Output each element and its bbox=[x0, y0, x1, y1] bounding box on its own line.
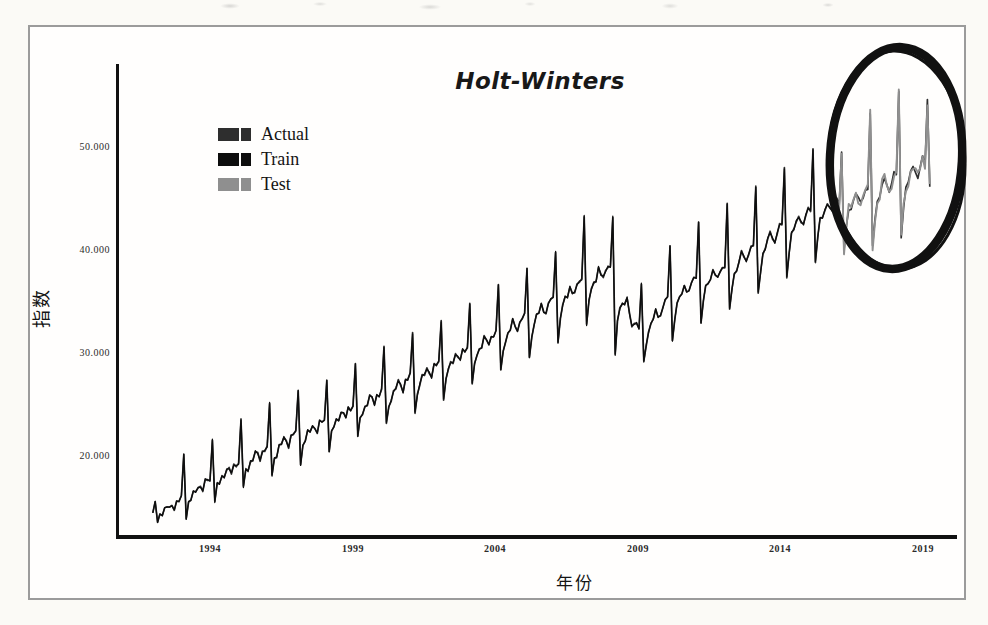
actual-line-swatch-icon bbox=[218, 128, 251, 141]
y-tick-30000: 30.000 bbox=[50, 347, 110, 358]
x-tick-2019: 2019 bbox=[912, 543, 934, 554]
legend-entry-train: Train bbox=[218, 147, 309, 172]
legend-entry-test: Test bbox=[218, 172, 309, 197]
legend-label-actual: Actual bbox=[261, 124, 309, 145]
legend-label-train: Train bbox=[261, 149, 299, 170]
x-tick-2004: 2004 bbox=[484, 543, 506, 554]
chart-title: Holt-Winters bbox=[455, 68, 625, 94]
x-tick-2009: 2009 bbox=[627, 543, 649, 554]
train-line-swatch-icon bbox=[218, 153, 251, 166]
screenshot-canvas: Holt-Winters Actual Train Test 50.000 40… bbox=[0, 0, 988, 625]
y-tick-50000: 50.000 bbox=[50, 141, 110, 152]
legend-label-test: Test bbox=[261, 174, 291, 195]
y-tick-40000: 40.000 bbox=[50, 244, 110, 255]
y-tick-20000: 20.000 bbox=[50, 450, 110, 461]
legend: Actual Train Test bbox=[218, 122, 309, 197]
test-line-swatch-icon bbox=[218, 178, 251, 191]
x-tick-2014: 2014 bbox=[769, 543, 791, 554]
legend-entry-actual: Actual bbox=[218, 122, 309, 147]
x-axis-label: 年份 bbox=[556, 569, 594, 594]
y-axis-label: 指数 bbox=[27, 288, 53, 328]
x-tick-1999: 1999 bbox=[342, 543, 364, 554]
x-tick-1994: 1994 bbox=[199, 543, 221, 554]
